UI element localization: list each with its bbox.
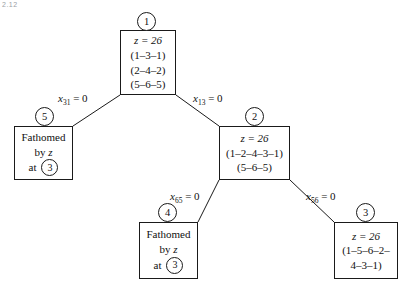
edge-label-n1-n2-rhs: = 0 bbox=[208, 92, 222, 104]
node-4-at-label: at bbox=[154, 258, 162, 273]
node-5-by-label: by bbox=[34, 146, 45, 158]
node-1-line-4: (5–6–5) bbox=[131, 77, 166, 92]
node-1-line-2: (1–3–1) bbox=[131, 48, 166, 63]
node-4-at-node-badge: 3 bbox=[166, 257, 183, 274]
node-5-box: Fathomed by z at 3 bbox=[14, 126, 73, 180]
edge-label-n1-n2: x13 = 0 bbox=[193, 92, 223, 107]
node-2-line-3: (5–6–5) bbox=[237, 160, 272, 175]
edge-label-n1-n5-rhs: = 0 bbox=[73, 92, 87, 104]
edge-label-n1-n5-sub: 31 bbox=[63, 98, 71, 107]
figure-corner-artifact: 2.12 bbox=[2, 1, 18, 8]
edge-label-n2-n4-rhs: = 0 bbox=[185, 190, 199, 202]
node-2-line-1: z = 26 bbox=[240, 131, 268, 146]
node-5-fathomed-text: Fathomed bbox=[22, 130, 66, 145]
node-4-box: Fathomed by z at 3 bbox=[139, 222, 198, 279]
node-5-badge: 5 bbox=[35, 107, 54, 126]
edge-label-n2-n4: x65 = 0 bbox=[170, 190, 200, 205]
edge-label-n2-n3-rhs: = 0 bbox=[321, 190, 335, 202]
node-3-line-3: 4–3–1) bbox=[350, 258, 381, 273]
node-5-at-node-badge: 3 bbox=[41, 159, 58, 176]
node-2-badge: 2 bbox=[245, 107, 264, 126]
node-4-by-z-line: by z bbox=[159, 242, 177, 257]
node-5-z-symbol: z bbox=[48, 146, 52, 158]
branch-and-bound-tree-figure: 2.12 1 z = 26 (1–3–1) (2–4–2) (5–6–5) x3… bbox=[0, 0, 406, 301]
node-4-by-label: by bbox=[159, 243, 170, 255]
edge-n2-n4 bbox=[198, 180, 219, 222]
node-5-at-line: at 3 bbox=[29, 159, 59, 176]
node-4-at-line: at 3 bbox=[154, 257, 184, 274]
edge-label-n2-n3: x56 = 0 bbox=[306, 190, 336, 205]
node-5-at-label: at bbox=[29, 160, 37, 175]
node-4-z-symbol: z bbox=[173, 243, 177, 255]
node-3-line-2: (1–5–6–2– bbox=[342, 243, 390, 258]
node-3-line-1: z = 26 bbox=[352, 229, 380, 244]
node-1-line-3: (2–4–2) bbox=[131, 63, 166, 78]
edge-label-n1-n2-sub: 13 bbox=[198, 98, 206, 107]
node-3-badge: 3 bbox=[356, 203, 375, 222]
edge-label-n1-n5: x31 = 0 bbox=[58, 92, 88, 107]
node-2-box: z = 26 (1–2–4–3–1) (5–6–5) bbox=[219, 126, 290, 180]
node-4-fathomed-text: Fathomed bbox=[147, 227, 191, 242]
node-1-badge: 1 bbox=[137, 12, 156, 31]
node-5-by-z-line: by z bbox=[34, 145, 52, 160]
node-3-box: z = 26 (1–5–6–2– 4–3–1) bbox=[334, 222, 398, 279]
node-4-badge: 4 bbox=[158, 203, 177, 222]
edge-label-n2-n3-sub: 56 bbox=[311, 196, 319, 205]
node-2-line-2: (1–2–4–3–1) bbox=[226, 146, 283, 161]
edge-label-n2-n4-sub: 65 bbox=[175, 196, 183, 205]
node-1-line-1: z = 26 bbox=[134, 33, 162, 48]
node-1-box: z = 26 (1–3–1) (2–4–2) (5–6–5) bbox=[120, 30, 176, 95]
